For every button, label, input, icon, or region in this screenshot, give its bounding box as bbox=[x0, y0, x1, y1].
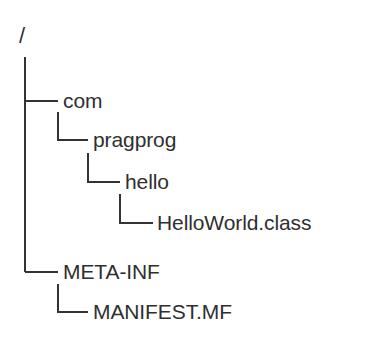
tree-connector-lines bbox=[0, 0, 379, 350]
tree-node-hello: hello bbox=[125, 171, 169, 192]
tree-node-com: com bbox=[63, 90, 102, 111]
tree-node-root: / bbox=[19, 25, 25, 46]
tree-node-meta-inf: META-INF bbox=[63, 261, 160, 282]
branch-line-hello bbox=[88, 153, 120, 182]
branch-line-helloworld bbox=[120, 194, 153, 223]
branch-line-manifest bbox=[58, 284, 88, 312]
branch-line-pragprog bbox=[58, 112, 88, 140]
jar-directory-tree-figure: / com pragprog hello HelloWorld.class ME… bbox=[0, 0, 379, 350]
tree-node-helloworld-class: HelloWorld.class bbox=[157, 212, 311, 233]
tree-node-manifest-mf: MANIFEST.MF bbox=[93, 301, 232, 322]
tree-node-pragprog: pragprog bbox=[93, 129, 176, 150]
